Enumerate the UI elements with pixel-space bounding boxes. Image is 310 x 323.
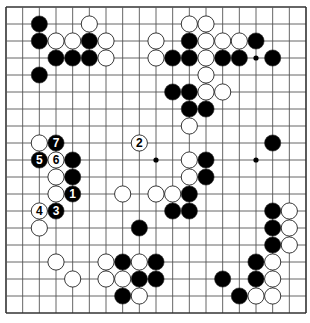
- black-stone: [48, 50, 64, 66]
- white-stone: [148, 186, 164, 202]
- white-stone: [115, 271, 131, 287]
- move-number-label: 3: [53, 204, 60, 218]
- black-stone: [265, 50, 281, 66]
- black-stone: [131, 220, 147, 236]
- white-stone: [48, 169, 64, 185]
- white-stone: [215, 33, 231, 49]
- white-stone: [48, 33, 64, 49]
- star-point-icon: [153, 157, 158, 162]
- black-stone: [65, 50, 81, 66]
- white-stone: [198, 50, 214, 66]
- star-point-icon: [253, 157, 258, 162]
- white-stone: [248, 288, 264, 304]
- black-stone: [265, 220, 281, 236]
- black-stone: [148, 254, 164, 270]
- white-stone: [165, 186, 181, 202]
- black-stone: [31, 33, 47, 49]
- black-stone: [81, 50, 97, 66]
- white-stone: [198, 84, 214, 100]
- white-stone: [98, 33, 114, 49]
- white-stone: [65, 33, 81, 49]
- black-stone: [265, 135, 281, 151]
- white-stone: [181, 118, 197, 134]
- white-stone: [281, 237, 297, 253]
- white-stone: [198, 33, 214, 49]
- white-stone: [98, 254, 114, 270]
- white-stone: [131, 254, 147, 270]
- white-stone: [131, 288, 147, 304]
- black-stone: [248, 271, 264, 287]
- black-stone: [231, 50, 247, 66]
- black-stone: [65, 169, 81, 185]
- black-stone: [181, 203, 197, 219]
- white-stone: [181, 152, 197, 168]
- black-stone: [231, 288, 247, 304]
- white-stone: [65, 271, 81, 287]
- black-stone: [131, 271, 147, 287]
- white-stone: [48, 186, 64, 202]
- black-stone: [115, 288, 131, 304]
- white-stone: [48, 254, 64, 270]
- white-stone: [31, 135, 47, 151]
- white-stone: [198, 16, 214, 32]
- black-stone: [215, 271, 231, 287]
- white-stone: [81, 16, 97, 32]
- white-stone: [231, 33, 247, 49]
- black-stone: [265, 203, 281, 219]
- white-stone: [181, 169, 197, 185]
- black-stone: [165, 50, 181, 66]
- black-stone: [165, 203, 181, 219]
- move-number-label: 5: [36, 153, 43, 167]
- white-stone: [98, 271, 114, 287]
- black-stone: [31, 16, 47, 32]
- black-stone: [198, 152, 214, 168]
- black-stone: [181, 33, 197, 49]
- move-number-label: 1: [69, 187, 76, 201]
- white-stone: [198, 67, 214, 83]
- black-stone: [148, 271, 164, 287]
- black-stone: [215, 50, 231, 66]
- black-stone: [181, 50, 197, 66]
- black-stone: [165, 84, 181, 100]
- move-number-label: 6: [53, 153, 60, 167]
- go-board: 1234567: [0, 0, 310, 323]
- move-number-label: 7: [53, 136, 60, 150]
- black-stone: [65, 152, 81, 168]
- white-stone: [281, 203, 297, 219]
- black-stone: [265, 237, 281, 253]
- black-stone: [181, 84, 197, 100]
- white-stone: [265, 254, 281, 270]
- black-stone: [181, 101, 197, 117]
- white-stone: [181, 16, 197, 32]
- black-stone: [181, 186, 197, 202]
- black-stone: [248, 33, 264, 49]
- white-stone: [148, 33, 164, 49]
- white-stone: [148, 50, 164, 66]
- black-stone: [248, 254, 264, 270]
- white-stone: [215, 84, 231, 100]
- white-stone: [265, 288, 281, 304]
- move-number-label: 2: [136, 136, 143, 150]
- black-stone: [198, 169, 214, 185]
- white-stone: [98, 50, 114, 66]
- star-point-icon: [253, 55, 258, 60]
- black-stone: [81, 33, 97, 49]
- black-stone: [31, 67, 47, 83]
- move-number-label: 4: [36, 204, 43, 218]
- white-stone: [115, 186, 131, 202]
- white-stone: [265, 271, 281, 287]
- white-stone: [31, 220, 47, 236]
- white-stone: [281, 220, 297, 236]
- go-board-diagram: 1234567: [0, 0, 310, 323]
- black-stone: [198, 101, 214, 117]
- black-stone: [115, 254, 131, 270]
